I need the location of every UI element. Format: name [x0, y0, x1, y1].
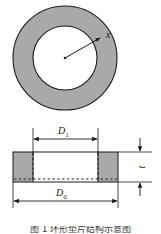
- radius-label-x: x: [105, 29, 111, 40]
- outer-diameter-subscript: 0: [64, 193, 67, 200]
- inner-diameter-dimension-group: D 1: [33, 125, 98, 155]
- plan-view-group: x: [13, 6, 117, 110]
- figure-caption: 图 1 环形垫片结构示意图: [0, 226, 161, 234]
- outer-diameter-dimension-group: D 0: [13, 182, 118, 208]
- inner-diameter-subscript: 1: [66, 131, 69, 138]
- section-view-group: [13, 152, 118, 182]
- figure-container: x D 1: [0, 0, 161, 234]
- section-left-block: [13, 152, 33, 182]
- section-right-block: [98, 152, 118, 182]
- technical-drawing-canvas: x D 1: [0, 0, 161, 234]
- thickness-label: t: [136, 165, 147, 168]
- thickness-dimension-group: t: [118, 138, 152, 196]
- figure-caption-text: 图 1 环形垫片结构示意图: [0, 226, 161, 234]
